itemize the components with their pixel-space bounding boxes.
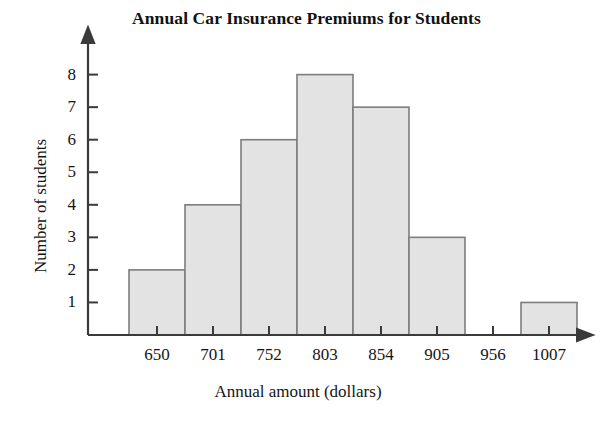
- histogram-figure: Annual Car Insurance Premiums for Studen…: [0, 0, 613, 422]
- y-tick-label: 6: [50, 131, 76, 148]
- y-tick-label: 7: [50, 98, 76, 115]
- y-tick-label: 8: [50, 66, 76, 83]
- histogram-bar: [129, 270, 185, 335]
- y-axis-ticks: [88, 75, 98, 303]
- histogram-bar: [297, 75, 353, 335]
- histogram-bar: [409, 237, 465, 335]
- y-tick-label: 1: [50, 293, 76, 310]
- y-tick-label: 2: [50, 261, 76, 278]
- histogram-bar: [241, 140, 297, 335]
- histogram-bar: [185, 205, 241, 335]
- y-tick-label: 4: [50, 196, 76, 213]
- bars-group: [129, 75, 577, 335]
- histogram-bar: [353, 107, 409, 335]
- x-tick-label: 1007: [509, 346, 589, 363]
- y-tick-label: 3: [50, 228, 76, 245]
- y-tick-label: 5: [50, 163, 76, 180]
